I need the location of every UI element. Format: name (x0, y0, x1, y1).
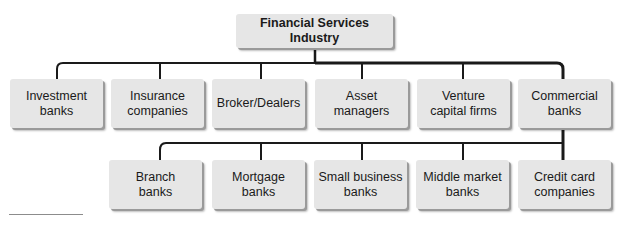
node-small-business-banks: Small business banks (314, 160, 407, 209)
node-middle-market-banks: Middle market banks (416, 160, 509, 209)
node-label: Broker/Dealers (217, 96, 300, 111)
node-label: Mortgage banks (232, 170, 285, 200)
node-insurance-companies: Insurance companies (111, 79, 204, 128)
node-label: Branch banks (136, 170, 176, 200)
node-branch-banks: Branch banks (109, 160, 202, 209)
node-label: Insurance companies (127, 89, 187, 119)
node-label: Small business banks (318, 170, 402, 200)
node-mortgage-banks: Mortgage banks (212, 160, 305, 209)
node-label: Credit card companies (534, 170, 595, 200)
node-broker-dealers: Broker/Dealers (212, 79, 305, 128)
node-label: Venture capital firms (430, 89, 497, 119)
node-asset-managers: Asset managers (315, 79, 408, 128)
node-label: Commercial banks (531, 89, 598, 119)
node-label: Financial Services Industry (236, 16, 393, 46)
node-venture-capital-firms: Venture capital firms (417, 79, 510, 128)
node-financial-services-industry: Financial Services Industry (236, 14, 393, 48)
footnote-rule (9, 214, 83, 215)
node-label: Middle market banks (423, 170, 502, 200)
node-label: Asset managers (334, 89, 390, 119)
node-credit-card-companies: Credit card companies (518, 160, 611, 209)
node-label: Investment banks (26, 89, 87, 119)
node-commercial-banks: Commercial banks (518, 79, 611, 128)
node-investment-banks: Investment banks (10, 79, 103, 128)
